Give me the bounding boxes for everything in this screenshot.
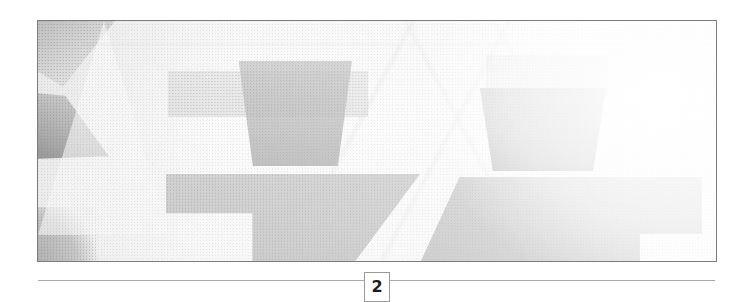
photo-halftone-grain bbox=[37, 20, 717, 262]
footer-rule-left bbox=[38, 280, 364, 281]
page-number-text: 2 bbox=[371, 279, 382, 295]
page-number-box: 2 bbox=[364, 272, 390, 302]
footer-rule-right bbox=[390, 280, 715, 281]
figure-photo-plate bbox=[37, 20, 717, 262]
page-footer: 2 bbox=[0, 272, 747, 295]
